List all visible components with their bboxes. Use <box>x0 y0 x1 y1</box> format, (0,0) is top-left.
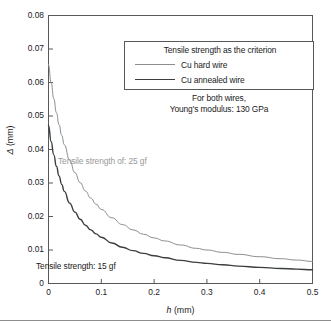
x-tick-label: 0.3 <box>187 287 227 297</box>
y-tick-label: 0.01 <box>0 244 44 254</box>
chart-note-line-1: For both wires, <box>124 93 314 104</box>
x-tick-label: 0.5 <box>293 287 331 297</box>
y-axis-label-symbol: Δ <box>5 149 15 155</box>
legend-label-cu-annealed-wire: Cu annealed wire <box>181 75 245 85</box>
annotation-tensile-strength-25gf: Tensile strength of: 25 gf <box>58 156 147 166</box>
legend-title: Tensile strength as the criterion <box>125 45 315 55</box>
legend-swatch-cu-annealed-wire <box>135 79 175 80</box>
chart-note-line-2: Young's modulus: 130 GPa <box>124 104 314 115</box>
x-axis-label-symbol: h <box>167 305 172 315</box>
y-tick-label: 0.03 <box>0 177 44 187</box>
x-axis-label: h (mm) <box>48 305 313 315</box>
y-tick-label: 0.08 <box>0 10 44 20</box>
y-axis-label-unit: (mm) <box>5 126 15 147</box>
y-tick-label: 0.02 <box>0 211 44 221</box>
legend-label-cu-hard-wire: Cu hard wire <box>181 60 227 70</box>
chart-note: For both wires, Young's modulus: 130 GPa <box>124 93 314 115</box>
legend-item-cu-hard-wire: Cu hard wire <box>135 57 315 72</box>
x-tick-label: 0.2 <box>134 287 174 297</box>
y-tick-label: 0.07 <box>0 43 44 53</box>
legend-item-cu-annealed-wire: Cu annealed wire <box>135 72 315 87</box>
x-axis-ticks <box>49 279 313 284</box>
series-line-cu-annealed-wire <box>49 125 313 269</box>
figure-bottom-rule <box>0 320 331 321</box>
x-tick-label: 0 <box>29 287 69 297</box>
y-tick-label: 0.06 <box>0 77 44 87</box>
x-tick-label: 0.4 <box>240 287 280 297</box>
x-tick-label: 0.1 <box>81 287 121 297</box>
x-axis-label-unit: (mm) <box>174 305 195 315</box>
chart-legend: Tensile strength as the criterion Cu har… <box>124 41 314 90</box>
y-axis-label: Δ (mm) <box>0 110 17 170</box>
annotation-tensile-strength-15gf: Tensile strength: 15 gf <box>36 261 116 271</box>
figure: 00.010.020.030.040.050.060.070.08 00.10.… <box>0 0 331 328</box>
legend-swatch-cu-hard-wire <box>135 64 175 65</box>
